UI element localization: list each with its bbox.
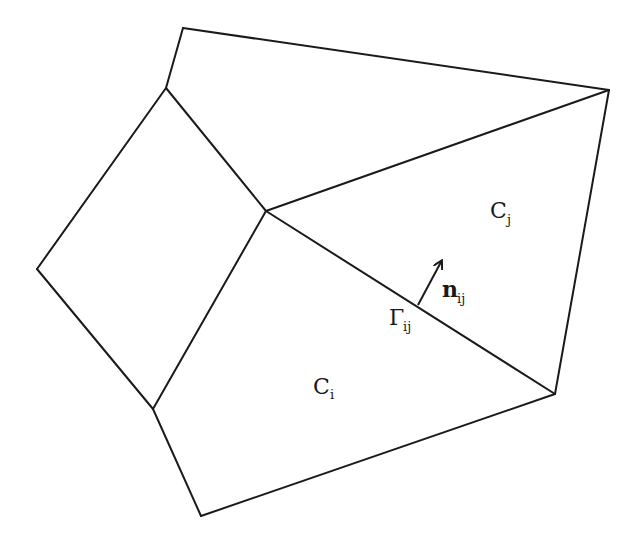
mesh-edge-CG (555, 90, 609, 394)
mesh-edge-BD (166, 88, 266, 211)
mesh-edge-FD (153, 211, 266, 409)
label-face: Γ ij (389, 305, 411, 334)
label-normal: n ij (442, 276, 465, 306)
label-cell-j: C j (490, 198, 511, 227)
label-cell-i-sub: i (330, 387, 334, 402)
normal-vector-arrow (418, 262, 441, 305)
label-face-main: Γ (389, 305, 404, 330)
label-normal-sub: ij (457, 291, 465, 306)
mesh-edges (37, 28, 609, 516)
label-cell-j-main: C (490, 198, 507, 223)
mesh-edge-HG (201, 394, 555, 516)
mesh-edge-AC (183, 28, 609, 90)
label-normal-main: n (442, 276, 458, 302)
mesh-edge-DG (266, 211, 555, 394)
label-cell-i: C i (313, 374, 334, 402)
mesh-edge-DC (266, 90, 609, 211)
mesh-edge-EF (37, 269, 153, 409)
label-face-sub: ij (403, 319, 411, 334)
label-cell-i-main: C (313, 374, 330, 399)
mesh-edge-AB (166, 28, 183, 88)
mesh-diagram: C j C i Γ ij n ij (0, 0, 636, 541)
mesh-edge-FH (153, 409, 201, 516)
mesh-edge-BE (37, 88, 166, 269)
